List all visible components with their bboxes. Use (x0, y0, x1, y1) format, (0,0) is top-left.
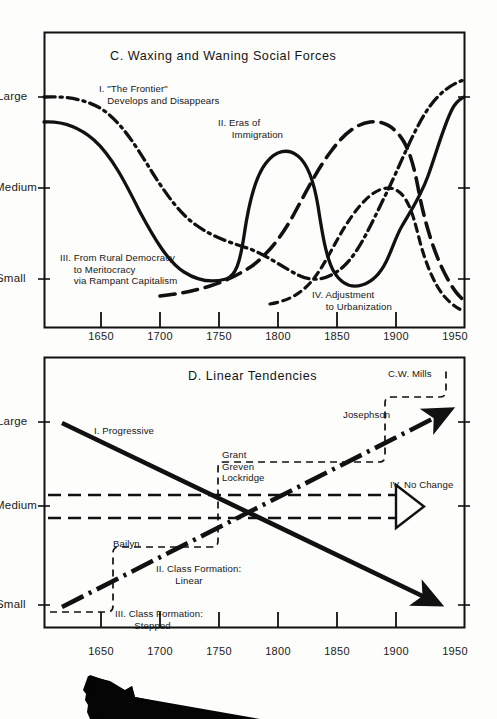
chart-d-xticks (101, 612, 396, 627)
chart-d-series-class-linear (62, 411, 448, 607)
chart-c-xticks (101, 312, 396, 327)
chart-c-series-3-rural-democracy (160, 122, 464, 300)
figure-page: Large Medium Small 1650 1700 1750 1800 1… (0, 0, 497, 719)
chart-d-plot (0, 345, 497, 675)
chart-c-plot (0, 0, 497, 345)
chart-c-figure: Large Medium Small 1650 1700 1750 1800 1… (0, 0, 497, 345)
chart-d-series-stepped (50, 369, 446, 612)
chart-d-figure: Large Medium Small 1650 1700 1750 1800 1… (0, 345, 497, 675)
chart-c-frame (45, 33, 465, 328)
page-edge-shadow (0, 660, 497, 719)
chart-c-series-1-frontier (44, 80, 464, 279)
chart-d-no-change-arrowhead (396, 485, 424, 528)
